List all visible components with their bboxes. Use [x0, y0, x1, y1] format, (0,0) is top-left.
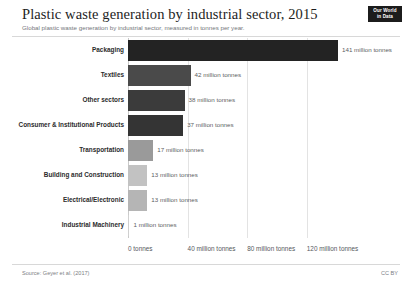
header-divider	[12, 36, 400, 37]
our-world-in-data-logo[interactable]: Our World in Data	[368, 6, 402, 22]
bar[interactable]	[128, 140, 153, 161]
bar-value-label: 141 million tonnes	[342, 46, 392, 53]
chart-subtitle: Global plastic waste generation by indus…	[22, 23, 392, 32]
chart-header: Plastic waste generation by industrial s…	[22, 6, 392, 36]
chart-card: Plastic waste generation by industrial s…	[0, 0, 412, 293]
footer-divider	[12, 264, 400, 265]
bar[interactable]	[128, 65, 191, 86]
bar-value-label: 17 million tonnes	[157, 146, 203, 153]
bar-row[interactable]: Other sectors38 million tonnes	[0, 88, 412, 113]
bar-value-label: 13 million tonnes	[151, 171, 197, 178]
bar-value-label: 37 million tonnes	[187, 121, 233, 128]
page-title: Plastic waste generation by industrial s…	[22, 6, 392, 22]
bar[interactable]	[128, 90, 185, 111]
bar-row[interactable]: Transportation17 million tonnes	[0, 138, 412, 163]
x-axis-tick-label: 40 million tonnes	[188, 245, 236, 252]
x-axis-tick-label: 120 million tonnes	[307, 245, 359, 252]
bar-category-label: Transportation	[79, 146, 124, 153]
license-note[interactable]: CC BY	[381, 270, 398, 276]
bar-value-label: 1 million tonnes	[133, 221, 176, 228]
logo-line-1: Our World	[368, 8, 402, 14]
bar-category-label: Electrical/Electronic	[63, 196, 124, 203]
bar-series: Packaging141 million tonnesTextiles42 mi…	[0, 38, 412, 238]
bar-value-label: 13 million tonnes	[151, 196, 197, 203]
logo-line-2: in Data	[368, 14, 402, 20]
bar-row[interactable]: Packaging141 million tonnes	[0, 38, 412, 63]
bar-category-label: Consumer & Institutional Products	[19, 121, 124, 128]
bar-value-label: 42 million tonnes	[195, 71, 241, 78]
bar-row[interactable]: Building and Construction13 million tonn…	[0, 163, 412, 188]
bar-category-label: Packaging	[92, 46, 124, 53]
bar[interactable]	[128, 215, 129, 236]
x-axis: 0 tonnes40 million tonnes80 million tonn…	[0, 245, 412, 257]
bar-row[interactable]: Electrical/Electronic13 million tonnes	[0, 188, 412, 213]
bar[interactable]	[128, 190, 147, 211]
x-axis-tick-label: 0 tonnes	[128, 245, 153, 252]
bar-category-label: Textiles	[101, 71, 124, 78]
x-axis-tick-label: 80 million tonnes	[247, 245, 295, 252]
bar-value-label: 38 million tonnes	[189, 96, 235, 103]
bar-row[interactable]: Consumer & Institutional Products37 mill…	[0, 113, 412, 138]
bar-category-label: Other sectors	[82, 96, 124, 103]
bar-category-label: Building and Construction	[44, 171, 124, 178]
bar-row[interactable]: Industrial Machinery1 million tonnes	[0, 213, 412, 238]
source-note: Source: Geyer et al. (2017)	[22, 270, 89, 276]
chart-plot-area: Packaging141 million tonnesTextiles42 mi…	[0, 38, 412, 238]
bar[interactable]	[128, 115, 183, 136]
bar-row[interactable]: Textiles42 million tonnes	[0, 63, 412, 88]
bar[interactable]	[128, 40, 338, 61]
bar-category-label: Industrial Machinery	[62, 221, 124, 228]
bar[interactable]	[128, 165, 147, 186]
